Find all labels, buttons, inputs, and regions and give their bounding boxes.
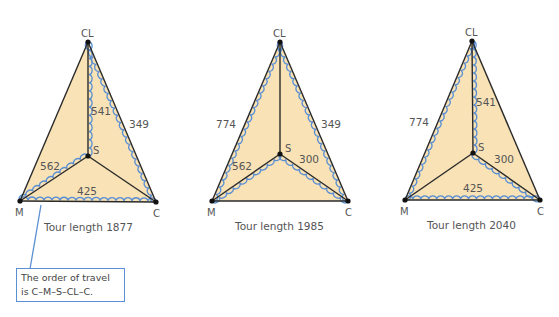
edge-label-m-s: 562 xyxy=(40,160,60,172)
diagram-1: CL S M C 541 349 562 425 Tour length 187… xyxy=(15,28,160,233)
callout-box: The order of travel is C–M–S–CL–C. xyxy=(16,268,125,302)
label-cl: CL xyxy=(81,28,94,39)
label-s: S xyxy=(285,143,291,154)
edge-label-cl-s: 541 xyxy=(91,105,111,117)
callout-line-2: is C–M–S–CL–C. xyxy=(21,285,120,299)
edge-cl-s xyxy=(472,41,473,153)
vertex-cl xyxy=(85,39,90,44)
edge-m-c xyxy=(20,201,156,202)
vertex-m xyxy=(209,198,214,203)
label-m: M xyxy=(400,206,409,217)
callout-line-1: The order of travel xyxy=(21,271,120,285)
tour-length-caption: Tour length 1877 xyxy=(43,221,133,233)
vertex-m xyxy=(17,198,22,203)
edge-label-cl-c: 349 xyxy=(129,118,149,130)
vertex-m xyxy=(402,197,407,202)
label-cl: CL xyxy=(465,27,478,38)
diagram-2: CL S M C 774 349 562 300 Tour length 198… xyxy=(207,28,352,232)
diagram-3: CL S M C 774 541 300 425 Tour length 204… xyxy=(400,27,544,231)
edge-label-cl-c: 349 xyxy=(321,118,341,130)
edge-label-cl-s: 541 xyxy=(476,96,496,108)
edge-label-cl-m: 774 xyxy=(216,118,236,130)
label-c: C xyxy=(153,208,160,219)
tour-length-caption: Tour length 2040 xyxy=(426,219,516,231)
vertex-cl xyxy=(469,38,474,43)
label-c: C xyxy=(537,206,544,217)
vertex-c xyxy=(153,199,158,204)
label-cl: CL xyxy=(273,28,286,39)
vertex-s xyxy=(470,150,475,155)
label-m: M xyxy=(15,207,24,218)
edge-label-m-c: 425 xyxy=(463,182,483,194)
vertex-c xyxy=(537,197,542,202)
edge-label-m-s: 562 xyxy=(232,160,252,172)
tour-length-caption: Tour length 1985 xyxy=(234,220,324,232)
callout-pointer xyxy=(30,205,41,269)
label-s: S xyxy=(93,145,99,156)
vertex-cl xyxy=(277,39,282,44)
vertex-c xyxy=(345,198,350,203)
vertex-s xyxy=(277,151,282,156)
label-m: M xyxy=(207,207,216,218)
label-s: S xyxy=(478,142,484,153)
vertex-s xyxy=(85,153,90,158)
edge-label-m-c: 425 xyxy=(77,185,97,197)
edge-label-s-c: 300 xyxy=(494,153,514,165)
edge-label-cl-m: 774 xyxy=(409,116,429,128)
edge-label-s-c: 300 xyxy=(299,153,319,165)
label-c: C xyxy=(345,207,352,218)
